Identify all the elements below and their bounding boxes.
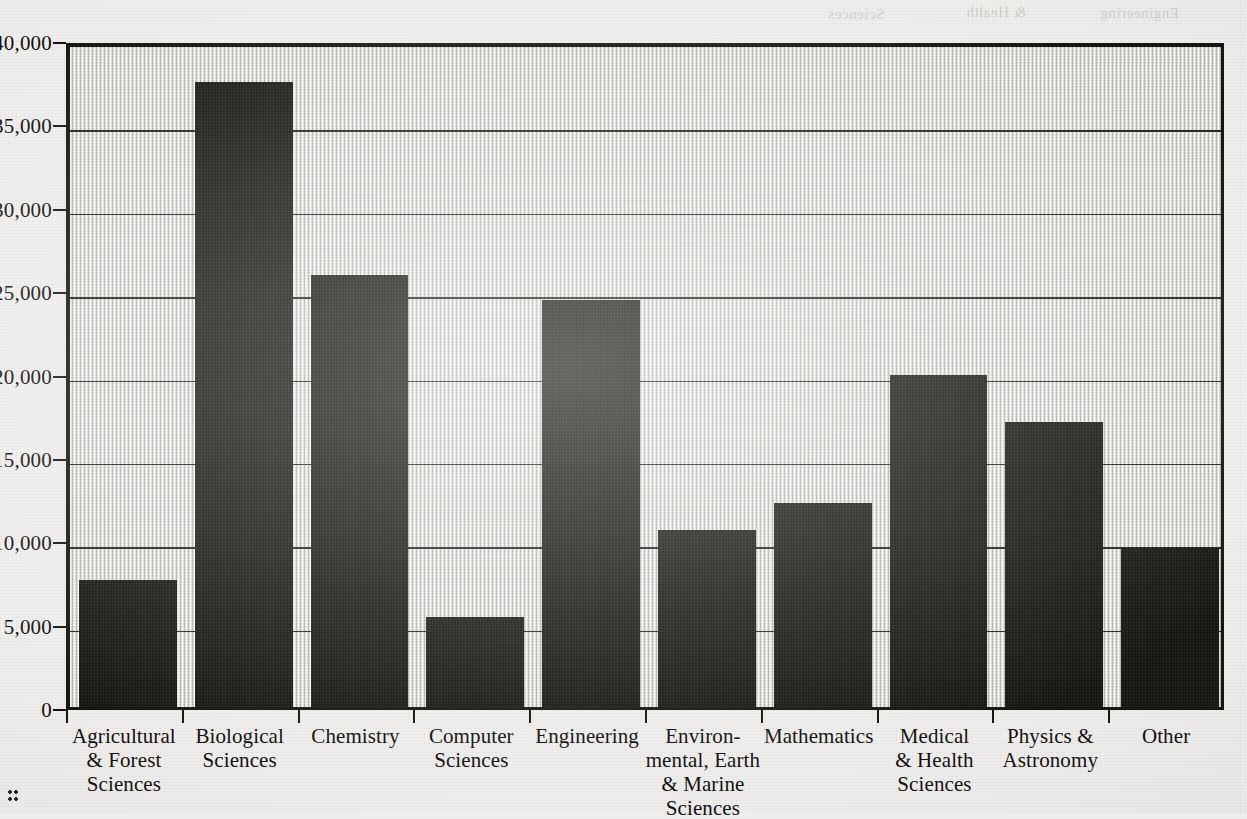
- category-label-line: & Forest: [66, 748, 182, 772]
- bar-2: [195, 82, 293, 707]
- y-axis-tick-label: 20,000: [0, 364, 52, 389]
- x-axis-labels: Agricultural& ForestSciencesBiologicalSc…: [66, 724, 1224, 813]
- y-axis-tick-mark: [53, 459, 66, 461]
- x-axis-tick-mark: [66, 710, 68, 723]
- bar-4: [426, 617, 524, 707]
- x-axis-tick-mark: [645, 710, 647, 723]
- bar-3: [311, 275, 409, 707]
- x-axis-tick-mark: [182, 710, 184, 723]
- x-axis-tick-mark: [992, 710, 994, 723]
- x-axis-tick-mark: [1108, 710, 1110, 723]
- category-label-line: Astronomy: [992, 748, 1108, 772]
- x-axis-category-label: Medical& HealthSciences: [877, 724, 993, 796]
- category-label-line: Chemistry: [298, 724, 414, 748]
- bar-5: [542, 300, 640, 707]
- y-axis-tick-label: 5,000: [4, 614, 52, 639]
- x-axis-tick-mark: [877, 710, 879, 723]
- x-axis-category-label: Mathematics: [761, 724, 877, 748]
- category-label-line: Medical: [877, 724, 993, 748]
- y-axis-tick-label: 10,000: [0, 531, 52, 556]
- category-label-line: mental, Earth: [645, 748, 761, 772]
- category-label-line: Engineering: [529, 724, 645, 748]
- y-axis-tick-mark: [53, 292, 66, 294]
- x-axis-category-label: Other: [1108, 724, 1224, 748]
- category-label-line: Mathematics: [761, 724, 877, 748]
- category-label-line: Environ-: [645, 724, 761, 748]
- y-axis-tick-mark: [53, 42, 66, 44]
- x-axis-ticks: [66, 710, 1224, 724]
- category-label-line: Sciences: [66, 772, 182, 796]
- category-label-line: Sciences: [645, 796, 761, 819]
- x-axis-category-label: ComputerSciences: [413, 724, 529, 772]
- x-axis-category-label: Agricultural& ForestSciences: [66, 724, 182, 796]
- y-axis-tick-mark: [53, 125, 66, 127]
- y-axis-tick-mark: [53, 626, 66, 628]
- bar-6: [658, 530, 756, 707]
- category-label-line: Biological: [182, 724, 298, 748]
- y-axis-tick-label: 0: [41, 698, 52, 723]
- category-label-line: Physics &: [992, 724, 1108, 748]
- y-axis: 05,00010,00015,00020,00025,00030,00035,0…: [0, 0, 66, 813]
- bars-layer: [70, 47, 1221, 707]
- bar-1: [79, 580, 177, 707]
- x-axis-category-label: BiologicalSciences: [182, 724, 298, 772]
- y-axis-tick-mark: [53, 709, 66, 711]
- y-axis-tick-label: 15,000: [0, 447, 52, 472]
- category-label-line: Sciences: [182, 748, 298, 772]
- plot-area: [66, 43, 1224, 710]
- x-axis-tick-mark: [761, 710, 763, 723]
- y-axis-tick-label: 25,000: [0, 281, 52, 306]
- y-axis-tick-label: 35,000: [0, 114, 52, 139]
- x-axis-tick-mark: [298, 710, 300, 723]
- x-axis-category-label: Engineering: [529, 724, 645, 748]
- y-axis-tick-mark: [53, 542, 66, 544]
- category-label-line: Agricultural: [66, 724, 182, 748]
- category-label-line: Sciences: [877, 772, 993, 796]
- category-label-line: Computer: [413, 724, 529, 748]
- x-axis-tick-mark: [529, 710, 531, 723]
- bar-8: [890, 375, 988, 707]
- bar-7: [774, 503, 872, 707]
- bar-10: [1121, 548, 1219, 707]
- x-axis-category-label: Environ-mental, Earth& MarineSciences: [645, 724, 761, 819]
- x-axis-category-label: Chemistry: [298, 724, 414, 748]
- category-label-line: & Health: [877, 748, 993, 772]
- category-label-line: Other: [1108, 724, 1224, 748]
- category-label-line: Sciences: [413, 748, 529, 772]
- y-axis-tick-label: 30,000: [0, 197, 52, 222]
- bar-9: [1005, 422, 1103, 707]
- category-label-line: & Marine: [645, 772, 761, 796]
- y-axis-tick-mark: [53, 376, 66, 378]
- y-axis-tick-mark: [53, 209, 66, 211]
- y-axis-tick-label: 40,000: [0, 31, 52, 56]
- x-axis-tick-mark: [413, 710, 415, 723]
- x-axis-category-label: Physics &Astronomy: [992, 724, 1108, 772]
